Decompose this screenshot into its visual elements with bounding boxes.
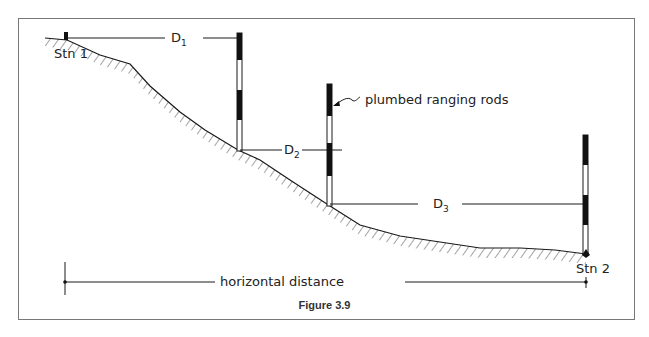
horizontal-distance-label: horizontal distance <box>220 274 344 289</box>
figure-caption: Figure 3.9 <box>0 299 649 311</box>
d1-label: D1 <box>171 30 187 48</box>
stn1-label: Stn 1 <box>54 46 88 61</box>
stn2-label: Stn 2 <box>576 261 610 276</box>
ranging-rod-1 <box>237 33 242 151</box>
ranging-rod-3 <box>583 135 588 255</box>
d2-label: D2 <box>284 142 300 160</box>
ranging-rod-2 <box>327 84 332 206</box>
ground-hatching <box>45 38 586 264</box>
stepping-diagram: Stn 1 D1 D2 D3 plumbed ranging rods Stn … <box>0 0 649 337</box>
stn1-peg <box>64 32 68 40</box>
rods-label: plumbed ranging rods <box>365 92 509 107</box>
d3-label: D3 <box>433 196 449 214</box>
